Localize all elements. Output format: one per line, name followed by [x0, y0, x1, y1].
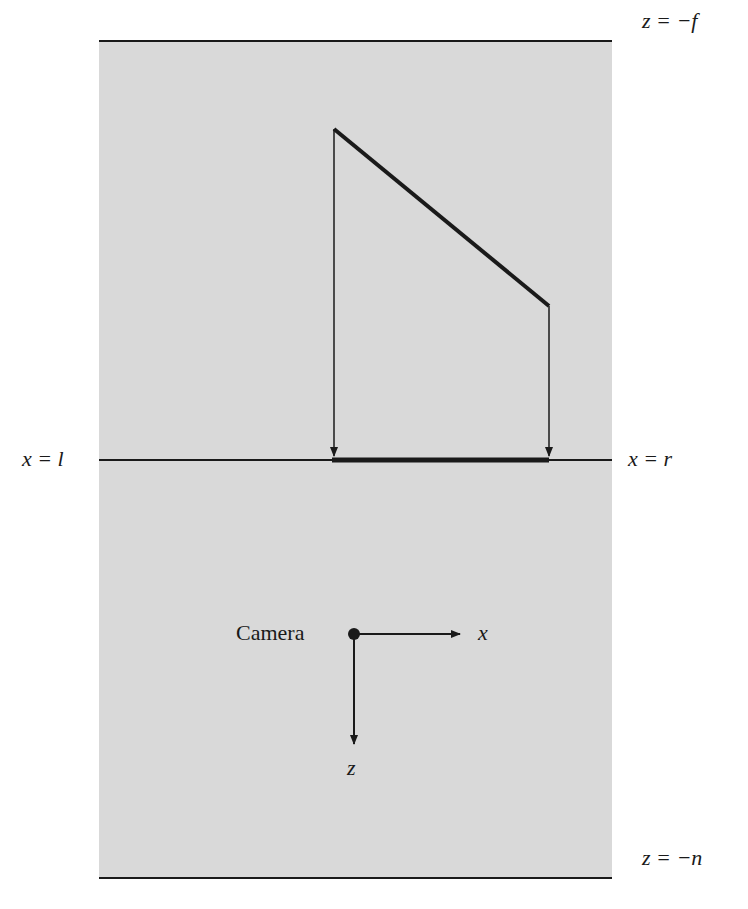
right-plane-label: x = r	[628, 446, 672, 472]
camera-label: Camera	[236, 620, 304, 646]
left-plane-label: x = l	[22, 446, 64, 472]
x-axis-label: x	[478, 620, 488, 646]
near-plane-label: z = −n	[642, 845, 702, 871]
z-axis-label: z	[347, 755, 356, 781]
far-plane-label: z = −f	[642, 8, 697, 34]
